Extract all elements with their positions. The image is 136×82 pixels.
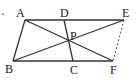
label-F: F — [110, 63, 117, 77]
label-A: A — [16, 6, 25, 20]
label-B: B — [5, 62, 13, 76]
label-D: D — [60, 6, 69, 20]
segment-EF-dashed — [113, 20, 124, 61]
segment-BE — [13, 20, 124, 61]
marker-dot: · — [1, 7, 5, 21]
segment-AB — [13, 20, 25, 61]
label-C: C — [70, 63, 78, 77]
geometry-figure: · A D E P B C F — [0, 0, 136, 82]
label-E: E — [122, 6, 129, 20]
label-P: P — [70, 29, 77, 43]
